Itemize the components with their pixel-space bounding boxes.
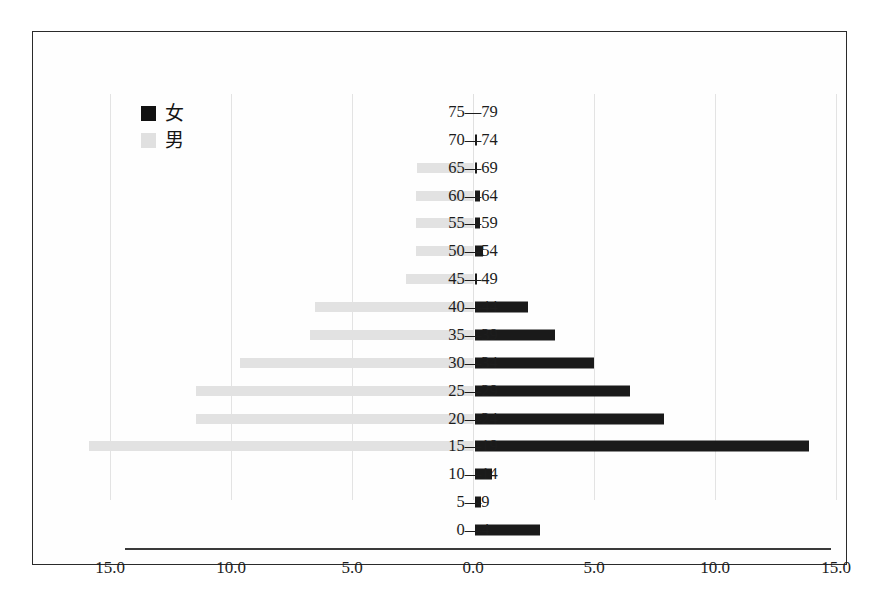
age-group-label: 35—39: [421, 325, 525, 345]
x-tick-label: 15.0: [821, 558, 851, 578]
age-group-label: 0—4: [421, 520, 525, 540]
bar-female: [475, 441, 809, 452]
chart-frame: 女 男 75—7970—7465—6960—6455—5950—5445—494…: [32, 31, 847, 565]
age-group-label: 15—19: [421, 436, 525, 456]
bar-row: 15—19: [77, 433, 847, 461]
age-group-label: 5—9: [421, 492, 525, 512]
bar-row: 65—69: [77, 154, 847, 182]
x-axis-line: [125, 548, 831, 550]
bar-row: 40—44: [77, 293, 847, 321]
age-group-label: 50—54: [421, 241, 525, 261]
age-group-label: 30—34: [421, 353, 525, 373]
bar-row: 30—34: [77, 349, 847, 377]
x-axis-tick-labels: 15.010.05.00.05.010.015.0: [77, 558, 847, 588]
bar-row: 20—24: [77, 405, 847, 433]
bar-row: 45—49: [77, 265, 847, 293]
age-group-label: 70—74: [421, 130, 525, 150]
age-group-label: 75—79: [421, 102, 525, 122]
age-group-label: 60—64: [421, 186, 525, 206]
bar-row: 25—29: [77, 377, 847, 405]
age-group-label: 65—69: [421, 158, 525, 178]
chart-page: 女 男 75—7970—7465—6960—6455—5950—5445—494…: [0, 0, 881, 597]
x-tick-label: 15.0: [95, 558, 125, 578]
age-group-label: 40—44: [421, 297, 525, 317]
bar-row: 35—39: [77, 321, 847, 349]
age-group-label: 20—24: [421, 409, 525, 429]
age-group-label: 55—59: [421, 213, 525, 233]
x-tick-label: 5.0: [341, 558, 362, 578]
bar-rows: 75—7970—7465—6960—6455—5950—5445—4940—44…: [77, 98, 847, 544]
bar-row: 75—79: [77, 98, 847, 126]
age-group-label: 25—29: [421, 381, 525, 401]
bar-row: 55—59: [77, 210, 847, 238]
bar-row: 50—54: [77, 237, 847, 265]
bar-row: 0—4: [77, 516, 847, 544]
x-tick-label: 10.0: [216, 558, 246, 578]
x-tick-label: 5.0: [583, 558, 604, 578]
plot-area: 75—7970—7465—6960—6455—5950—5445—4940—44…: [77, 72, 847, 542]
x-tick-label: 10.0: [700, 558, 730, 578]
age-group-label: 45—49: [421, 269, 525, 289]
bar-row: 70—74: [77, 126, 847, 154]
bar-row: 10—14: [77, 460, 847, 488]
bar-male: [89, 441, 473, 451]
bar-row: 60—64: [77, 182, 847, 210]
age-group-label: 10—14: [421, 464, 525, 484]
x-tick-label: 0.0: [462, 558, 483, 578]
bar-row: 5—9: [77, 488, 847, 516]
